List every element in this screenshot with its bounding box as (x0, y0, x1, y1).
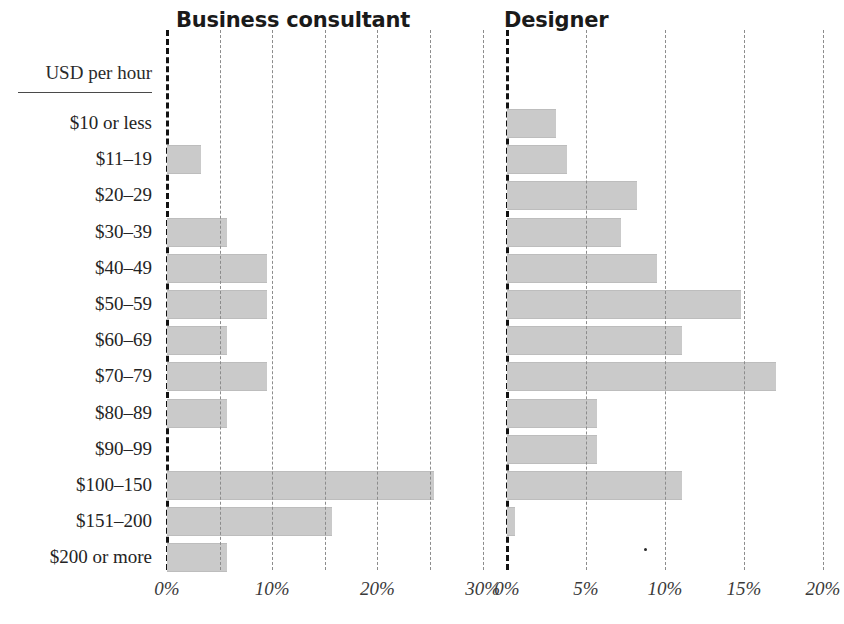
category-label: $90–99 (0, 431, 152, 467)
panel-designer (507, 30, 837, 570)
x-tick-label: 20% (360, 578, 395, 600)
bar-row (507, 539, 837, 575)
x-tick-label: 10% (648, 578, 683, 600)
x-tick-label: 10% (255, 578, 290, 600)
x-tick-label: 0% (154, 578, 179, 600)
panel-title-business-consultant: Business consultant (176, 8, 410, 32)
bar (507, 254, 657, 283)
category-label: $10 or less (0, 105, 152, 141)
category-label: $60–69 (0, 322, 152, 358)
x-tick-label: 0% (494, 578, 519, 600)
gridline (744, 30, 745, 570)
bar (167, 290, 267, 319)
bar (167, 362, 267, 391)
category-label: $151–200 (0, 503, 152, 539)
bar (507, 471, 682, 500)
bar-row (507, 177, 837, 213)
bar (507, 362, 776, 391)
bar-row (507, 105, 837, 141)
bar-row (507, 214, 837, 250)
category-label: $200 or more (0, 539, 152, 575)
bar (507, 181, 637, 210)
bar (507, 399, 597, 428)
gridline (586, 30, 587, 570)
category-label: $50–59 (0, 286, 152, 322)
x-tick-label: 5% (573, 578, 598, 600)
bar (507, 218, 621, 247)
bar-row (507, 322, 837, 358)
bar (507, 109, 556, 138)
minor-gridline (220, 30, 221, 570)
bar-row (507, 286, 837, 322)
bar-row (507, 431, 837, 467)
bar (167, 218, 227, 247)
bar-row (507, 358, 837, 394)
bar-row (507, 467, 837, 503)
bar (507, 507, 515, 536)
minor-gridline (430, 30, 431, 570)
x-tick-label: 20% (806, 578, 841, 600)
bar (167, 471, 434, 500)
category-label-column: $10 or less$11–19$20–29$30–39$40–49$50–5… (0, 105, 152, 575)
bar (507, 326, 682, 355)
bar (167, 399, 227, 428)
bar-group-designer (507, 105, 837, 575)
gridline (377, 30, 378, 570)
bar (167, 326, 227, 355)
bar (167, 254, 267, 283)
bar-row (507, 250, 837, 286)
category-label: $30–39 (0, 214, 152, 250)
minor-gridline (325, 30, 326, 570)
panel-title-designer: Designer (504, 8, 608, 32)
gridline (483, 30, 484, 570)
x-tick-label: 15% (727, 578, 762, 600)
bar (167, 543, 227, 572)
print-speck (644, 548, 647, 551)
bar-row (507, 503, 837, 539)
category-label: $70–79 (0, 358, 152, 394)
bar-row (507, 395, 837, 431)
bar (507, 435, 597, 464)
chart-figure: Business consultant Designer USD per hou… (0, 0, 844, 624)
bar (167, 145, 201, 174)
category-label: $20–29 (0, 177, 152, 213)
category-axis-header: USD per hour (0, 62, 152, 84)
gridline (272, 30, 273, 570)
bar-row (507, 141, 837, 177)
category-label: $40–49 (0, 250, 152, 286)
category-label: $11–19 (0, 141, 152, 177)
bar (507, 145, 567, 174)
category-label: $100–150 (0, 467, 152, 503)
gridline (665, 30, 666, 570)
category-label: $80–89 (0, 395, 152, 431)
gridline (823, 30, 824, 570)
category-axis-header-rule (18, 92, 152, 93)
bar (167, 507, 332, 536)
bar (507, 290, 741, 319)
